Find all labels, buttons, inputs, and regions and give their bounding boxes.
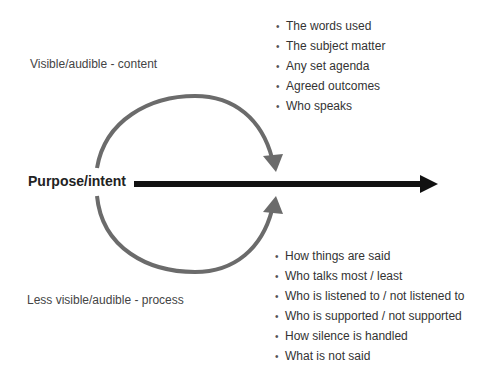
process-item: •How silence is handled [275, 326, 464, 346]
purpose-intent-label: Purpose/intent [28, 173, 126, 189]
bullet-icon: • [275, 347, 285, 367]
bullet-icon: • [276, 77, 286, 97]
process-item: •What is not said [275, 346, 464, 366]
process-item: •How things are said [275, 246, 464, 266]
content-item: •The subject matter [276, 36, 385, 56]
process-label: Less visible/audible - process [27, 293, 184, 307]
process-item: •Who is supported / not supported [275, 306, 464, 326]
bullet-icon: • [276, 97, 286, 117]
top-arc-arrow [97, 96, 283, 172]
bullet-icon: • [275, 247, 285, 267]
bullet-icon: • [275, 287, 285, 307]
content-item: •Any set agenda [276, 56, 385, 76]
main-arrow [134, 175, 438, 193]
content-item: •The words used [276, 16, 385, 36]
bullet-icon: • [276, 17, 286, 37]
bullet-icon: • [276, 57, 286, 77]
bullet-icon: • [276, 37, 286, 57]
content-label: Visible/audible - content [30, 57, 157, 71]
bottom-arc-arrow [97, 196, 283, 272]
bullet-icon: • [275, 267, 285, 287]
bullet-icon: • [275, 327, 285, 347]
process-list: •How things are said •Who talks most / l… [275, 246, 464, 366]
process-item: •Who is listened to / not listened to [275, 286, 464, 306]
bullet-icon: • [275, 307, 285, 327]
process-item: •Who talks most / least [275, 266, 464, 286]
content-list: •The words used •The subject matter •Any… [276, 16, 385, 116]
content-item: •Agreed outcomes [276, 76, 385, 96]
content-item: •Who speaks [276, 96, 385, 116]
